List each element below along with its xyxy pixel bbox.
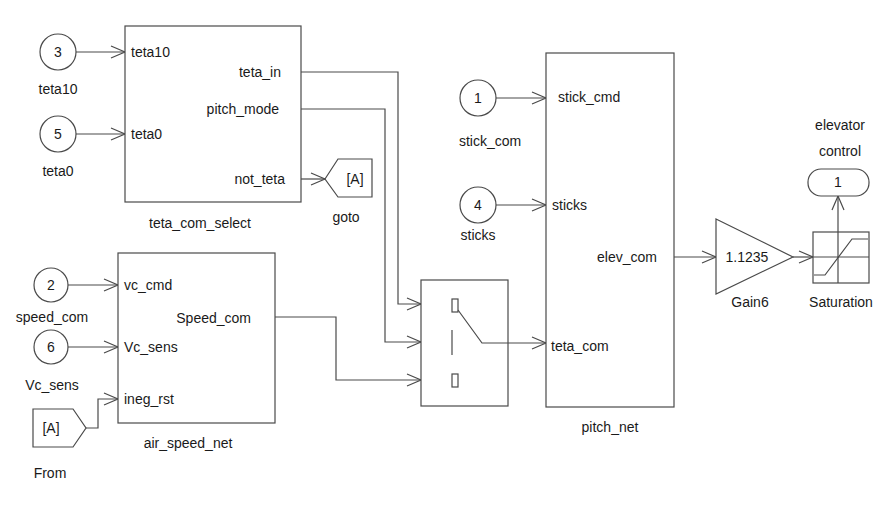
goto-block[interactable]: [A] goto: [325, 159, 372, 225]
wire-ineg-rst: [86, 399, 118, 428]
inport-label: stick_com: [459, 133, 521, 149]
inport-speed-com[interactable]: 2 speed_com: [16, 268, 88, 325]
port-label-pitch-mode: pitch_mode: [207, 101, 280, 117]
inport-vc-sens[interactable]: 6 Vc_sens: [25, 330, 79, 393]
block-name: teta_com_select: [149, 215, 251, 231]
from-tag: [A]: [42, 420, 59, 436]
inport-number: 4: [474, 197, 482, 213]
inport-teta0[interactable]: 5 teta0: [40, 116, 76, 179]
port-label-elev-com: elev_com: [597, 249, 657, 265]
diagram-canvas: 3 teta10 5 teta0 teta10 teta0 teta_in pi…: [0, 0, 895, 505]
block-name: goto: [332, 209, 359, 225]
inport-label: teta0: [42, 163, 73, 179]
switch-contact-top: [452, 299, 458, 312]
inport-label: Vc_sens: [25, 377, 79, 393]
port-label-stick-cmd: stick_cmd: [558, 89, 620, 105]
inport-teta10[interactable]: 3 teta10: [39, 34, 78, 97]
port-label-teta10: teta10: [131, 44, 170, 60]
block-name: pitch_net: [582, 419, 639, 435]
block-name: air_speed_net: [144, 435, 233, 451]
inport-label: teta10: [39, 81, 78, 97]
inport-number: 3: [54, 44, 62, 60]
wire-teta-in: [301, 72, 458, 304]
inport-label: sticks: [461, 227, 496, 243]
from-block[interactable]: [A] From: [33, 409, 86, 481]
inport-sticks[interactable]: 4 sticks: [460, 187, 496, 243]
port-label-teta-com: teta_com: [551, 338, 609, 354]
inport-stick-com[interactable]: 1 stick_com: [459, 80, 521, 149]
inport-label: speed_com: [16, 309, 88, 325]
outport-label-line1: elevator: [815, 117, 865, 133]
block-name: Gain6: [731, 294, 769, 310]
outport-number: 1: [834, 174, 842, 190]
inport-number: 5: [54, 126, 62, 142]
goto-tag: [A]: [346, 171, 363, 187]
port-label-vc-cmd: vc_cmd: [124, 277, 172, 293]
inport-number: 1: [474, 90, 482, 106]
gain-block[interactable]: 1.1235 Gain6: [716, 219, 793, 310]
port-label-sticks: sticks: [552, 197, 587, 213]
gain-value: 1.1235: [726, 249, 769, 265]
outport-label-line2: control: [819, 143, 861, 159]
port-label-speed-com: Speed_com: [176, 310, 251, 326]
port-label-ineg-rst: ineg_rst: [124, 391, 174, 407]
inport-number: 6: [47, 339, 55, 355]
saturation-block[interactable]: Saturation: [809, 232, 873, 310]
port-label-teta0: teta0: [131, 126, 162, 142]
switch-contact-bottom: [452, 374, 458, 387]
switch-block[interactable]: [421, 280, 508, 406]
block-name: Saturation: [809, 294, 873, 310]
port-label-vc-sens: Vc_sens: [124, 339, 178, 355]
subsystem-pitch-net[interactable]: stick_cmd sticks teta_com elev_com pitch…: [546, 53, 674, 435]
port-label-not-teta: not_teta: [234, 171, 285, 187]
port-label-teta-in: teta_in: [239, 64, 281, 80]
inport-number: 2: [47, 277, 55, 293]
subsystem-teta-com-select[interactable]: teta10 teta0 teta_in pitch_mode not_teta…: [125, 26, 301, 231]
outport-elevator-control[interactable]: 1 elevator control: [808, 117, 869, 196]
block-name: From: [34, 465, 67, 481]
subsystem-air-speed-net[interactable]: vc_cmd Vc_sens ineg_rst Speed_com air_sp…: [118, 253, 275, 451]
wire-speed-com-out: [275, 317, 421, 380]
